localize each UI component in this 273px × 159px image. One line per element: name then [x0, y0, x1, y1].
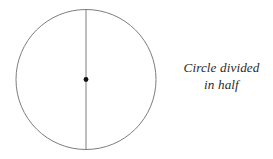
caption-line-2: in half [172, 77, 271, 94]
caption-line-1: Circle divided [172, 60, 271, 77]
caption: Circle divided in half [172, 60, 271, 93]
figure-container: Circle divided in half [0, 0, 273, 159]
center-dot-icon [84, 77, 89, 82]
